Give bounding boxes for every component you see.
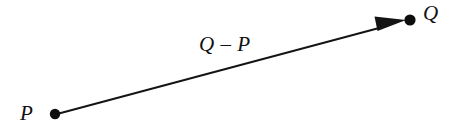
- vector-arrowhead: [375, 17, 407, 32]
- vector-diagram-canvas: [0, 0, 462, 134]
- vector-diagram-figure: P Q Q – P: [0, 0, 462, 134]
- vector-label-q-minus-p: Q – P: [199, 34, 251, 55]
- point-marker-p: [50, 109, 60, 119]
- point-label-p: P: [20, 103, 33, 124]
- point-marker-q: [404, 14, 415, 25]
- point-label-q: Q: [423, 3, 438, 24]
